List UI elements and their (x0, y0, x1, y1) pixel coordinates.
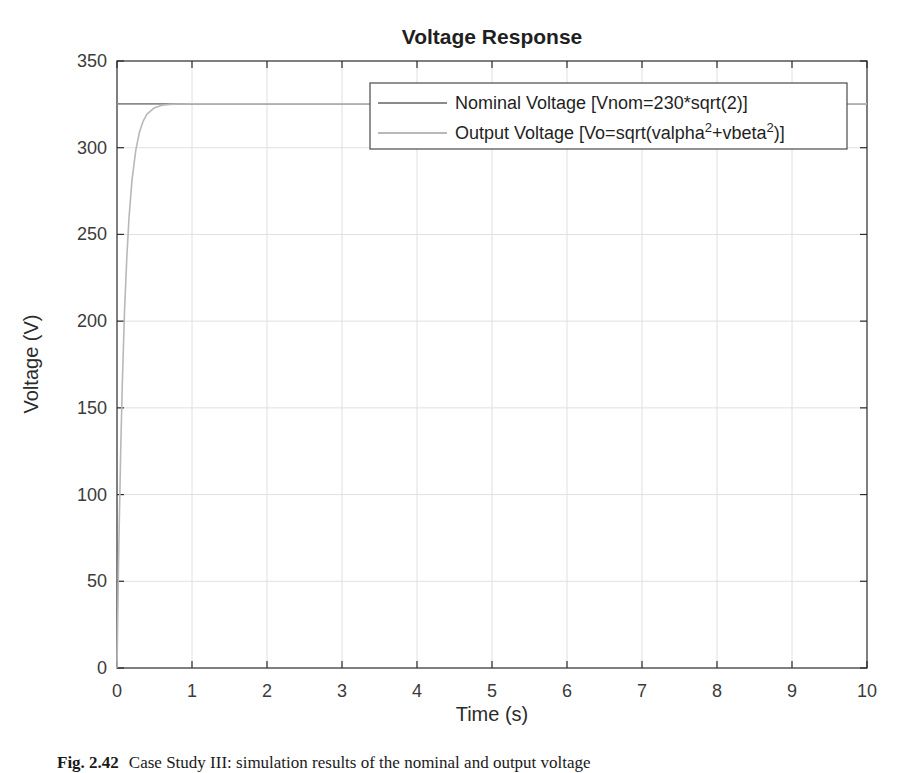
y-tick-label: 100 (77, 485, 107, 505)
y-tick-label: 0 (97, 658, 107, 678)
y-tick-label: 300 (77, 138, 107, 158)
x-tick-label: 4 (412, 681, 422, 701)
y-tick-label: 250 (77, 224, 107, 244)
legend: Nominal Voltage [Vnom=230*sqrt(2)]Output… (370, 83, 847, 149)
x-tick-label: 7 (637, 681, 647, 701)
y-tick-label: 350 (77, 51, 107, 71)
grid-layer (117, 61, 867, 668)
x-tick-label: 9 (787, 681, 797, 701)
y-axis-label: Voltage (V) (20, 315, 42, 414)
chart-title: Voltage Response (402, 25, 583, 48)
x-tick-label: 3 (337, 681, 347, 701)
y-tick-label: 200 (77, 311, 107, 331)
x-tick-label: 1 (187, 681, 197, 701)
legend-label: Output Voltage [Vo=sqrt(valpha2+vbeta2)] (455, 120, 785, 143)
voltage-response-chart: 012345678910050100150200250300350 Nomina… (0, 0, 907, 745)
x-tick-label: 2 (262, 681, 272, 701)
x-tick-label: 8 (712, 681, 722, 701)
x-axis-label: Time (s) (456, 703, 529, 725)
x-tick-label: 10 (857, 681, 877, 701)
caption-fig-number: Fig. 2.42 (57, 753, 119, 772)
figure-caption: Fig. 2.42Case Study III: simulation resu… (57, 753, 857, 773)
y-tick-label: 50 (87, 571, 107, 591)
x-tick-label: 5 (487, 681, 497, 701)
caption-text: Case Study III: simulation results of th… (129, 753, 591, 772)
y-tick-label: 150 (77, 398, 107, 418)
legend-label: Nominal Voltage [Vnom=230*sqrt(2)] (455, 93, 748, 113)
x-tick-label: 0 (112, 681, 122, 701)
x-tick-label: 6 (562, 681, 572, 701)
